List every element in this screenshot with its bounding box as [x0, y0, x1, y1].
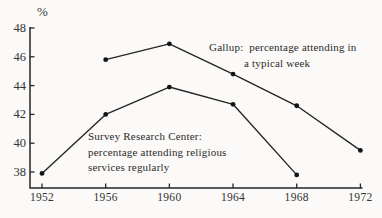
src-data-point: [231, 102, 236, 107]
x-tick-label-1968: 1968: [279, 191, 315, 203]
src-data-point: [294, 172, 299, 177]
church-attendance-figure: % 48 46 44 42 40 38 Gallup: percentage a…: [0, 0, 382, 218]
x-tick-label-1952: 1952: [24, 191, 60, 203]
gallup-data-point: [231, 72, 236, 77]
gallup-series-annotation: Gallup: percentage attending in a typica…: [209, 39, 357, 71]
x-tick-label-1964: 1964: [215, 191, 251, 203]
gallup-data-point: [294, 103, 299, 108]
line-chart-canvas: [0, 0, 382, 218]
src-data-point: [167, 85, 172, 90]
src-data-point: [40, 171, 45, 176]
src-annotation-line-2: percentage attending religious: [88, 145, 227, 161]
src-annotation-line-1: Survey Research Center:: [88, 129, 227, 145]
x-tick-label-1960: 1960: [151, 191, 187, 203]
gallup-annotation-line-2: a typical week: [244, 55, 357, 71]
src-data-point: [103, 112, 108, 117]
gallup-data-point: [103, 57, 108, 62]
gallup-data-point: [167, 41, 172, 46]
src-annotation-line-3: services regularly: [88, 160, 227, 176]
gallup-data-point: [358, 148, 363, 153]
x-tick-label-1972: 1972: [342, 191, 378, 203]
survey-research-center-annotation: Survey Research Center: percentage atten…: [88, 129, 227, 176]
x-tick-label-1956: 1956: [88, 191, 124, 203]
gallup-annotation-line-1: Gallup: percentage attending in: [209, 39, 357, 55]
